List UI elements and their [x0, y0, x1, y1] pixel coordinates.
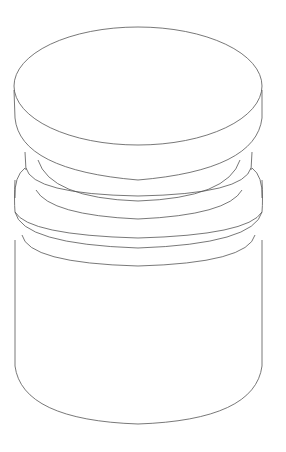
cylinder-svg	[0, 0, 286, 452]
cylinder-drawing	[0, 0, 286, 452]
top-cap-face	[14, 27, 262, 145]
base-left-edge	[15, 240, 262, 424]
base-top-curve	[22, 235, 255, 266]
neck-groove-inner-2	[36, 190, 242, 219]
neck-groove-upper	[26, 168, 251, 196]
neck-groove-inner-1	[38, 160, 240, 201]
neck-right-edge	[251, 152, 252, 170]
neck-left-edge	[25, 152, 26, 170]
collar-ring-right	[252, 168, 262, 198]
collar-ring-top	[15, 180, 263, 238]
collar-ring-left	[15, 168, 25, 198]
top-cap-side	[14, 90, 262, 180]
